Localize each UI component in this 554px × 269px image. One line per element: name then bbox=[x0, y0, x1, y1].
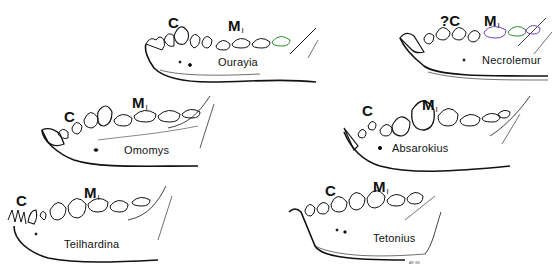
specimen-name-absarokius: Absarokius bbox=[392, 142, 448, 154]
jaw-panel-absarokius: C MI Absarokius bbox=[340, 96, 530, 176]
molar-label: MI bbox=[373, 178, 389, 196]
molar-label: MI bbox=[422, 96, 438, 114]
molar-letter: M bbox=[132, 94, 145, 111]
molar-letter: M bbox=[84, 184, 97, 201]
specimen-name-omomys: Omomys bbox=[124, 144, 169, 156]
specimen-name-ourayia: Ourayia bbox=[218, 56, 258, 68]
molar-label: MI bbox=[228, 17, 244, 35]
molar-subscript: I bbox=[98, 193, 100, 202]
molar-letter: M bbox=[484, 12, 497, 29]
molar-label: MI bbox=[484, 12, 500, 30]
molar-subscript: I bbox=[436, 105, 438, 114]
jaw-panel-tetonius: C MI Tetonius AV 85 bbox=[285, 180, 455, 268]
specimen-name-necrolemur: Necrolemur bbox=[482, 54, 541, 66]
canine-label: ?C bbox=[440, 12, 460, 29]
canine-label: C bbox=[168, 14, 179, 31]
jaw-panel-ourayia: C MI Ourayia bbox=[140, 10, 320, 90]
artist-signature: AV 85 bbox=[409, 260, 420, 265]
jaw-drawing-omomys bbox=[38, 94, 218, 174]
jaw-panel-teilhardina: C MI Teilhardina bbox=[8, 182, 178, 268]
molar-subscript: I bbox=[146, 103, 148, 112]
molar-label: MI bbox=[132, 94, 148, 112]
jaw-panel-omomys: C MI Omomys bbox=[38, 94, 218, 174]
molar-letter: M bbox=[373, 178, 386, 195]
canine-label: C bbox=[325, 182, 336, 199]
canine-label: C bbox=[362, 102, 373, 119]
molar-subscript: I bbox=[387, 187, 389, 196]
canine-label: C bbox=[64, 108, 75, 125]
molar-letter: M bbox=[228, 17, 241, 34]
molar-label: MI bbox=[84, 184, 100, 202]
jaw-drawing-necrolemur bbox=[398, 8, 554, 88]
molar-subscript: I bbox=[498, 21, 500, 30]
canine-label: C bbox=[16, 192, 27, 209]
specimen-name-teilhardina: Teilhardina bbox=[64, 238, 119, 250]
jaw-panel-necrolemur: ?C MI Necrolemur bbox=[398, 8, 554, 88]
jaw-drawing-tetonius bbox=[285, 180, 455, 268]
specimen-name-tetonius: Tetonius bbox=[373, 232, 416, 244]
molar-letter: M bbox=[422, 96, 435, 113]
molar-subscript: I bbox=[242, 26, 244, 35]
